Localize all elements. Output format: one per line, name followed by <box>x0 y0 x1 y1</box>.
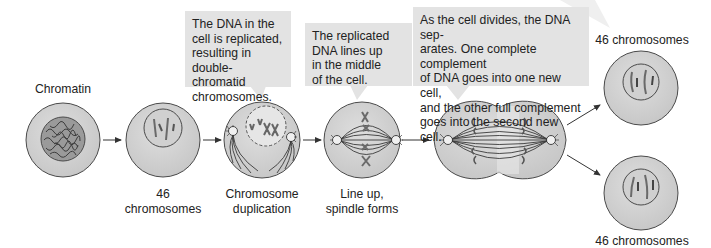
spindle-cell <box>324 102 403 178</box>
label-line: 46 <box>118 187 208 202</box>
callout-line-up: The replicated DNA lines up in the middl… <box>305 23 412 86</box>
chromatin-cell <box>26 103 100 177</box>
label-46-chromosomes: 46 chromosomes <box>118 187 208 216</box>
callout-replication: The DNA in the cell is replicated, resul… <box>185 11 291 87</box>
label-line: chromosomes <box>118 202 208 217</box>
label-line: 46 chromosomes <box>590 33 694 48</box>
callout-line: chromosomes. <box>192 90 284 105</box>
callout-line: resulting in <box>192 46 284 61</box>
callout-line: cell is replicated, <box>192 32 284 47</box>
callout-line: of DNA goes into one new cell, <box>420 71 582 100</box>
label-line: Line up, <box>317 187 407 202</box>
label-daughter-bottom: 46 chromosomes <box>590 234 694 248</box>
label-line: 46 chromosomes <box>590 234 694 248</box>
arrow-icon <box>567 155 600 175</box>
callout-line: arates. One complete complement <box>420 42 582 71</box>
label-line: duplication <box>217 202 307 217</box>
callout-line: of the cell. <box>312 73 405 88</box>
label-line-up-spindle: Line up, spindle forms <box>317 187 407 216</box>
callout-line: As the cell divides, the DNA sep- <box>420 13 582 42</box>
daughter-cell-top <box>604 51 678 125</box>
label-line: spindle forms <box>317 202 407 217</box>
callout-line: The DNA in the <box>192 17 284 32</box>
label-daughter-top: 46 chromosomes <box>590 33 694 48</box>
label-line: Chromosome <box>217 187 307 202</box>
callout-division: As the cell divides, the DNA sep- arates… <box>413 7 589 86</box>
daughter-cell-bottom <box>604 156 678 230</box>
label-chromosome-duplication: Chromosome duplication <box>217 187 307 216</box>
callout-line: The replicated <box>312 29 405 44</box>
label-chromatin: Chromatin <box>23 82 103 97</box>
chromosomes-cell <box>126 103 200 177</box>
callout-line: double-chromatid <box>192 61 284 90</box>
label-line: Chromatin <box>23 82 103 97</box>
duplication-cell <box>224 102 300 178</box>
callout-line: DNA lines up <box>312 44 405 59</box>
callout-line: and the other full complement <box>420 101 582 116</box>
callout-line: in the middle <box>312 58 405 73</box>
callout-line: goes into the second new cell. <box>420 115 582 144</box>
